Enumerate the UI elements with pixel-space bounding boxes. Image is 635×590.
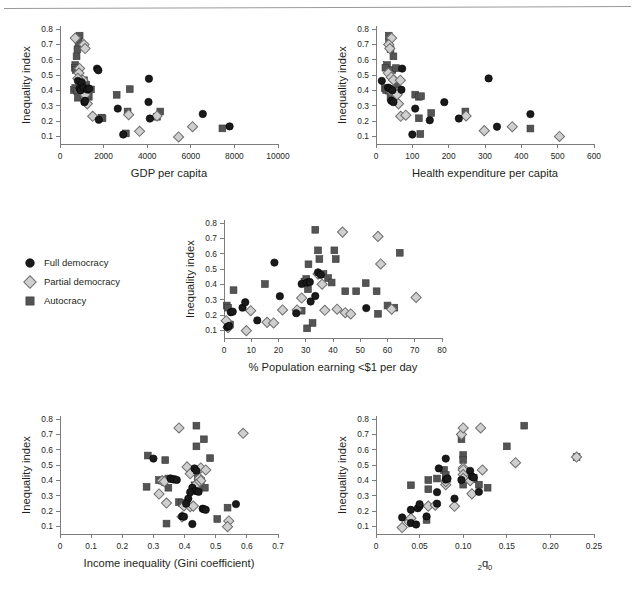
data-point-square [353, 288, 360, 295]
data-point-circle [475, 488, 482, 495]
data-point-diamond [320, 305, 330, 315]
x-axis-title: GDP per capita [131, 167, 208, 179]
y-tick-label: 0.6 [357, 445, 369, 455]
data-point-circle [442, 455, 449, 462]
y-tick-label: 0.7 [205, 233, 217, 243]
y-tick-label: 0.1 [357, 521, 369, 531]
data-point-circle [444, 475, 451, 482]
x-tick-label: 0 [58, 151, 63, 161]
data-point-diamond [337, 227, 347, 237]
square-icon [22, 295, 38, 307]
data-point-diamond [246, 306, 256, 316]
legend: Full democracy Partial democracy Autocra… [22, 253, 162, 310]
data-point-circle [202, 506, 209, 513]
data-point-square [425, 486, 432, 493]
data-point-circle [199, 110, 206, 117]
data-point-circle [95, 67, 102, 74]
data-point-circle [182, 500, 189, 507]
x-tick-label: 0.20 [542, 541, 559, 551]
plot-two-q-zero: 0.10.20.30.40.50.60.70.800.050.100.150.2… [330, 404, 630, 582]
data-point-square [230, 287, 237, 294]
y-tick-label: 0.5 [357, 460, 369, 470]
data-point-square [201, 484, 208, 491]
series-partial-democracy [221, 227, 421, 336]
x-tick-label: 0.6 [241, 541, 253, 551]
data-point-square [207, 455, 214, 462]
data-point-circle [398, 514, 405, 521]
data-point-diamond [297, 293, 307, 303]
y-tick-label: 0.1 [41, 521, 53, 531]
data-point-circle [378, 77, 385, 84]
data-point-circle [426, 117, 433, 124]
diamond-icon [22, 275, 38, 289]
scatter-panel-health-expenditure: 0.10.20.30.40.50.60.70.80100200300400500… [330, 14, 630, 192]
data-point-square [162, 457, 169, 464]
data-point-square [521, 422, 528, 429]
data-point-square [163, 520, 170, 527]
data-point-circle [433, 500, 440, 507]
data-point-diamond [277, 305, 287, 315]
data-point-diamond [477, 465, 487, 475]
y-tick-label: 0.3 [357, 101, 369, 111]
data-point-circle [412, 105, 419, 112]
data-point-circle [390, 98, 397, 105]
y-tick-label: 0.1 [41, 131, 53, 141]
data-point-square [312, 226, 319, 233]
y-axis-title: Inequality index [336, 436, 348, 514]
data-point-square [126, 86, 133, 93]
data-point-diamond [238, 428, 248, 438]
data-point-square [415, 115, 422, 122]
data-point-square [407, 482, 414, 489]
data-point-square [224, 504, 231, 511]
data-point-circle [317, 271, 324, 278]
y-tick-label: 0.4 [41, 475, 53, 485]
y-tick-label: 0.3 [41, 491, 53, 501]
circle-icon [22, 257, 38, 269]
data-point-square [214, 516, 221, 523]
legend-item-partial-democracy: Partial democracy [22, 272, 162, 291]
data-point-diamond [411, 292, 421, 302]
y-tick-label: 0.4 [357, 475, 369, 485]
data-point-circle [146, 115, 153, 122]
scatter-panel-gdp-per-capita: 0.10.20.30.40.50.60.70.80200040006000800… [14, 14, 314, 192]
y-tick-label: 0.8 [205, 218, 217, 228]
x-tick-label: 10 [247, 345, 257, 355]
y-axis-title: Inequality index [336, 46, 348, 124]
y-tick-label: 0.8 [41, 24, 53, 34]
data-point-square [304, 325, 311, 332]
data-point-square [331, 247, 338, 254]
y-tick-label: 0.8 [41, 414, 53, 424]
x-axis-title: Health expenditure per capita [412, 167, 559, 179]
data-point-circle [455, 115, 462, 122]
data-point-circle [451, 495, 458, 502]
data-point-diamond [174, 132, 184, 142]
x-tick-label: 0.3 [148, 541, 160, 551]
x-tick-label: 400 [514, 151, 528, 161]
data-point-square [527, 125, 534, 132]
data-point-circle [493, 123, 500, 130]
series-full-democracy [150, 455, 240, 528]
plot-population-earning-under-1-dollar: 0.10.20.30.40.50.60.70.80102030405060708… [178, 208, 478, 388]
x-tick-label: 0.1 [85, 541, 97, 551]
data-point-diamond [449, 501, 459, 511]
data-point-square [503, 443, 510, 450]
x-tick-label: 100 [405, 151, 419, 161]
data-point-circle [271, 259, 278, 266]
scatter-panel-two-q-zero: 0.10.20.30.40.50.60.70.800.050.100.150.2… [330, 404, 630, 582]
data-point-diamond [269, 318, 279, 328]
data-point-square [362, 280, 369, 287]
y-tick-label: 0.4 [41, 85, 53, 95]
x-tick-label: 0.05 [411, 541, 428, 551]
data-point-square [73, 53, 80, 60]
data-point-circle [145, 98, 152, 105]
plot-gdp-per-capita: 0.10.20.30.40.50.60.70.80200040006000800… [14, 14, 314, 192]
data-point-square [315, 247, 322, 254]
data-point-diamond [134, 126, 144, 136]
data-point-square [200, 436, 207, 443]
x-tick-label: 200 [442, 151, 456, 161]
data-point-square [484, 484, 491, 491]
data-point-circle [81, 97, 88, 104]
data-point-square [342, 288, 349, 295]
data-point-diamond [507, 122, 517, 132]
y-tick-label: 0.2 [41, 116, 53, 126]
